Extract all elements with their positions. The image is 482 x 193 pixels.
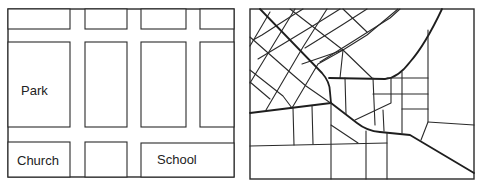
street	[250, 82, 270, 99]
block	[85, 142, 127, 177]
block	[200, 9, 234, 29]
main-diagonal-road	[260, 9, 331, 103]
block	[200, 42, 234, 127]
street	[340, 50, 343, 78]
block	[8, 9, 70, 29]
park-label: Park	[21, 83, 48, 98]
block	[85, 9, 127, 29]
street	[345, 78, 346, 114]
street	[290, 9, 372, 78]
west-road	[250, 103, 331, 113]
grid-map: Park Church School	[8, 9, 234, 177]
map-diagram: Park Church School	[0, 0, 482, 193]
street	[331, 125, 358, 143]
irregular-map	[250, 9, 474, 179]
street	[373, 78, 375, 125]
block	[141, 42, 186, 127]
block	[141, 9, 186, 29]
school-label: School	[157, 152, 197, 167]
church-label: Church	[17, 153, 59, 168]
street	[428, 122, 474, 125]
street	[383, 110, 384, 131]
street	[293, 108, 294, 145]
street	[312, 106, 313, 144]
street	[343, 9, 367, 32]
block	[85, 42, 127, 127]
